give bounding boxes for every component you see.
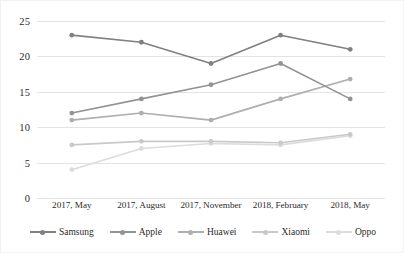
- legend-label: Xiaomi: [280, 227, 310, 237]
- legend-marker-icon: [120, 230, 125, 235]
- series-apple: [69, 61, 352, 115]
- data-point: [348, 132, 353, 137]
- legend-swatch-icon: [178, 228, 204, 237]
- x-tick-label: 2017, May: [37, 200, 107, 218]
- series-line: [72, 63, 350, 113]
- y-tick-label: 10: [19, 122, 30, 133]
- data-point: [69, 118, 74, 123]
- y-tick-label: 25: [19, 16, 30, 27]
- legend-swatch-icon: [326, 228, 352, 237]
- data-point: [69, 33, 74, 38]
- legend-item-huawei[interactable]: Huawei: [178, 227, 237, 237]
- y-tick-label: 0: [25, 193, 30, 204]
- data-point: [209, 61, 214, 66]
- data-point: [139, 139, 144, 144]
- x-tick-label: 2018, May: [315, 200, 385, 218]
- data-point: [69, 143, 74, 148]
- legend-marker-icon: [40, 230, 45, 235]
- data-point: [209, 82, 214, 87]
- legend-item-xiaomi[interactable]: Xiaomi: [252, 227, 310, 237]
- data-point: [348, 47, 353, 52]
- chart-legend: SamsungAppleHuaweiXiaomiOppo: [1, 222, 404, 242]
- data-point: [278, 96, 283, 101]
- y-tick-label: 5: [25, 157, 30, 168]
- data-point: [139, 40, 144, 45]
- data-point: [348, 96, 353, 101]
- legend-item-apple[interactable]: Apple: [110, 227, 162, 237]
- data-point: [139, 111, 144, 116]
- legend-label: Samsung: [58, 227, 94, 237]
- data-point: [209, 118, 214, 123]
- legend-swatch-icon: [30, 228, 56, 237]
- data-point: [139, 96, 144, 101]
- x-tick-label: 2017, August: [107, 200, 177, 218]
- x-axis: 2017, May2017, August2017, November2018,…: [37, 200, 385, 218]
- data-point: [348, 77, 353, 82]
- legend-label: Oppo: [354, 227, 376, 237]
- legend-label: Huawei: [206, 227, 237, 237]
- legend-swatch-icon: [110, 228, 136, 237]
- plot-area: [37, 21, 385, 198]
- data-point: [69, 167, 74, 172]
- data-point: [139, 146, 144, 151]
- series-line: [72, 35, 350, 63]
- legend-marker-icon: [263, 230, 268, 235]
- data-point: [278, 33, 283, 38]
- data-point: [278, 140, 283, 145]
- y-tick-label: 15: [19, 86, 30, 97]
- gridline-0: [37, 198, 385, 199]
- legend-item-oppo[interactable]: Oppo: [326, 227, 376, 237]
- data-point: [278, 61, 283, 66]
- x-tick-label: 2018, February: [246, 200, 316, 218]
- chart-container: 0510152025 2017, May2017, August2017, No…: [0, 0, 404, 253]
- series-lines: [37, 21, 385, 198]
- legend-label: Apple: [138, 227, 162, 237]
- data-point: [69, 111, 74, 116]
- legend-swatch-icon: [252, 228, 278, 237]
- series-samsung: [69, 33, 352, 66]
- y-tick-label: 20: [19, 51, 30, 62]
- x-tick-label: 2017, November: [176, 200, 246, 218]
- legend-item-samsung[interactable]: Samsung: [30, 227, 94, 237]
- data-point: [209, 139, 214, 144]
- y-axis: 0510152025: [1, 21, 35, 198]
